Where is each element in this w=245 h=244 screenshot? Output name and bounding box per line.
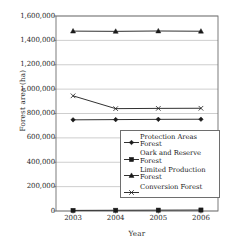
legend-symbol — [123, 137, 140, 148]
data-point-square — [199, 208, 203, 212]
data-point-cross — [71, 94, 76, 99]
data-point-diamond — [71, 118, 76, 123]
legend-item[interactable]: Oark and ReserveForest — [123, 150, 217, 166]
series-1 — [71, 117, 203, 122]
legend-item[interactable]: Limited ProductionForest — [123, 166, 217, 182]
legend-item[interactable]: Protection AreasForest — [123, 133, 217, 149]
series-3 — [71, 28, 204, 33]
chart-legend: Protection AreasForestOark and ReserveFo… — [120, 130, 220, 198]
legend-label: Protection AreasForest — [140, 133, 217, 149]
legend-marker-cross-icon — [123, 183, 140, 194]
data-point-square — [156, 208, 160, 212]
legend-marker-square-icon — [123, 150, 140, 161]
legend-label: Limited ProductionForest — [140, 166, 217, 182]
legend-marker-diamond-icon — [123, 133, 140, 144]
chart-figure: Forest area (ha) Year 0200,000400,000600… — [0, 0, 245, 244]
plot-area — [0, 0, 245, 244]
series-line — [73, 96, 201, 109]
legend-symbol — [123, 187, 140, 198]
legend-symbol — [123, 170, 140, 181]
legend-label: Conversion Forest — [140, 183, 217, 191]
legend-label: Oark and ReserveForest — [140, 150, 217, 166]
legend-label-line: Forest — [140, 141, 217, 149]
data-point-square — [129, 157, 133, 161]
data-point-diamond — [113, 117, 118, 122]
data-point-diamond — [199, 117, 204, 122]
series-4 — [71, 94, 203, 111]
data-point-diamond — [129, 140, 134, 145]
legend-label-line: Forest — [140, 174, 217, 182]
data-point-diamond — [156, 117, 161, 122]
legend-label-line: Forest — [140, 158, 217, 166]
series-line — [73, 119, 201, 120]
legend-label-line: Conversion Forest — [140, 184, 217, 192]
legend-item[interactable]: Conversion Forest — [123, 183, 217, 194]
legend-marker-triangle-icon — [123, 166, 140, 177]
data-point-square — [114, 208, 118, 212]
legend-symbol — [123, 154, 140, 165]
data-point-square — [71, 208, 75, 212]
series-2 — [71, 208, 203, 213]
